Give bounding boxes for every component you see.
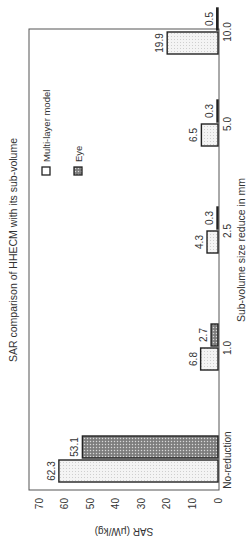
- x-axis-label: Sub-volume size reduce in mm: [235, 178, 247, 322]
- y-axis-ticks: 010203040506070: [34, 498, 224, 510]
- bar-value-label: 6.5: [188, 128, 199, 142]
- x-tick-label: 5.0: [222, 117, 233, 131]
- x-tick-label: 2.5: [222, 224, 233, 238]
- y-tick-label: 0: [213, 498, 224, 504]
- bar-value-label: 4.3: [194, 235, 205, 249]
- bar-multi-layer-0: [59, 460, 218, 482]
- bar-eye-1: [211, 324, 218, 346]
- bar-multi-layer-1: [201, 348, 218, 370]
- bar-value-label: 19.9: [154, 33, 165, 53]
- y-tick-label: 70: [34, 498, 45, 510]
- bar-multi-layer-3: [201, 124, 218, 146]
- x-tick-label: 1.0: [222, 341, 233, 355]
- y-tick-label: 50: [85, 498, 96, 510]
- bar-chart: SAR comparison of HHECM with its sub-vol…: [0, 0, 249, 544]
- bar-value-label: 2.7: [198, 328, 209, 342]
- bar-value-label: 6.8: [188, 352, 199, 366]
- bars-group: 62.353.16.82.74.30.36.50.319.90.5: [46, 8, 218, 482]
- y-axis-label: SAR (μW/kg): [95, 526, 154, 537]
- legend: Multi-layer model Eye: [41, 90, 84, 175]
- y-tick-label: 20: [161, 498, 172, 510]
- bar-eye-3: [217, 100, 218, 122]
- legend-label-eye: Eye: [73, 146, 84, 162]
- legend-label-multi-layer: Multi-layer model: [41, 90, 52, 162]
- plot-frame: [29, 29, 219, 490]
- y-tick-label: 40: [110, 498, 121, 510]
- bar-value-label: 0.5: [204, 12, 215, 26]
- y-tick-label: 30: [136, 498, 147, 510]
- legend-swatch-multi-layer: [42, 167, 50, 175]
- bar-eye-0: [82, 436, 218, 458]
- bar-value-label: 53.1: [69, 437, 80, 457]
- bar-value-label: 62.3: [46, 461, 57, 481]
- chart-title: SAR comparison of HHECM with its sub-vol…: [7, 138, 19, 362]
- bar-multi-layer-4: [167, 32, 218, 54]
- x-axis-ticks: No-reduction1.02.55.010.0: [222, 22, 233, 489]
- legend-swatch-eye: [74, 167, 82, 175]
- y-tick-label: 10: [187, 498, 198, 510]
- bar-value-label: 0.3: [204, 104, 215, 118]
- chart-rotated-container: SAR comparison of HHECM with its sub-vol…: [0, 0, 249, 544]
- bar-value-label: 0.3: [204, 211, 215, 225]
- bar-multi-layer-2: [207, 231, 218, 253]
- x-tick-label: No-reduction: [222, 431, 233, 488]
- x-tick-label: 10.0: [222, 22, 233, 42]
- bar-eye-2: [217, 207, 218, 229]
- y-tick-label: 60: [59, 498, 70, 510]
- bar-eye-4: [217, 8, 218, 30]
